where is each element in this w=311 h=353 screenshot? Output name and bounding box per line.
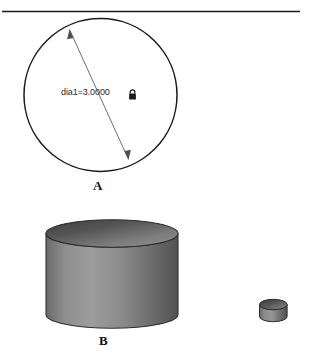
engineering-figure-canvas xyxy=(0,0,311,353)
part-b-label: B xyxy=(99,334,108,347)
part-b-small-cylinder xyxy=(260,299,288,321)
lock-icon[interactable] xyxy=(128,86,137,97)
diameter-dimension-text[interactable]: dia1=3.0000 xyxy=(61,88,110,97)
part-b-large-cylinder xyxy=(46,220,178,329)
part-a-label: A xyxy=(93,179,102,192)
large-cylinder-top-face xyxy=(46,220,178,248)
small-cylinder-top-face xyxy=(260,299,288,309)
